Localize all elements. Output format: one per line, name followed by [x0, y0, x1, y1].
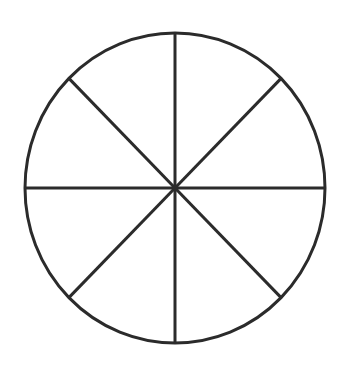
divider-line-315deg	[175, 188, 281, 298]
divider-line-135deg	[69, 78, 175, 188]
divided-circle-diagram	[0, 0, 340, 367]
divider-line-225deg	[69, 188, 175, 298]
circle-divided-into-eighths	[0, 0, 340, 367]
center-point	[172, 185, 178, 191]
divider-line-45deg	[175, 78, 281, 188]
